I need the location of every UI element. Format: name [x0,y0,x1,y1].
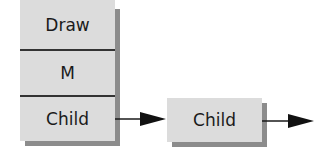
arrow-stack-to-child-icon [115,112,166,126]
arrow-child-to-next-icon [262,114,314,128]
connector-layer [0,0,334,159]
